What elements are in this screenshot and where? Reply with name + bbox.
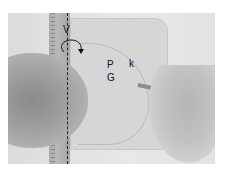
label-k: k [129, 59, 134, 69]
label-v: V [63, 25, 70, 35]
label-p: P [107, 60, 114, 70]
right-hand [148, 65, 215, 164]
label-g: G [107, 73, 115, 83]
vertical-axis-dashed-line [67, 13, 68, 164]
rotation-arrow-icon [58, 38, 84, 58]
left-hand [8, 53, 88, 148]
photo: V P G k [8, 13, 215, 164]
